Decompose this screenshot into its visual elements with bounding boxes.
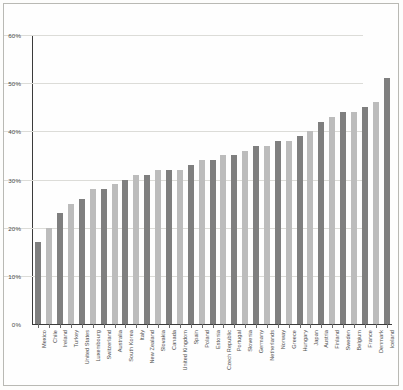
x-axis-category-label: Norway [280,330,286,349]
x-axis-category-label: Slovakia [160,330,166,352]
x-axis-tick [256,324,257,328]
x-axis-category-label: Austria [323,330,329,348]
x-axis-tick [136,324,137,328]
x-axis-category-label: Czech Republic [226,330,232,370]
bar [68,204,74,324]
x-axis-category-label: Italy [139,330,145,341]
bar [166,170,172,324]
bar [384,78,390,324]
bar [46,228,52,324]
bar [329,117,335,324]
bar [144,175,150,324]
chart-frame: 0%10%20%30%40%50%60% MexicoChileIrelandT… [3,3,399,386]
y-axis-tick-label: 10% [0,272,21,279]
x-axis-category-label: Mexico [41,330,47,348]
bar [112,184,118,324]
bar [351,112,357,324]
x-axis-tick [169,324,170,328]
x-axis-category-label: Germany [258,330,264,353]
x-axis-tick [234,324,235,328]
x-axis-category-label: Canada [171,330,177,350]
x-axis-category-label: Australia [117,330,123,352]
bar [57,213,63,324]
bar [318,122,324,324]
x-axis-category-label: Switzerland [106,330,112,359]
x-axis-tick [38,324,39,328]
bar [188,165,194,324]
x-axis-category-label: Chile [52,330,58,343]
bar [373,102,379,324]
x-axis-tick [49,324,50,328]
x-axis-tick [267,324,268,328]
bar [275,141,281,324]
x-axis-tick [289,324,290,328]
x-axis-tick [223,324,224,328]
x-axis-category-label: Denmark [378,330,384,353]
y-axis-tick-label: 20% [0,224,21,231]
y-axis-tick-label: 40% [0,128,21,135]
x-axis-category-label: Sweden [345,330,351,351]
x-axis-tick [60,324,61,328]
x-axis-tick [387,324,388,328]
bar [155,170,161,324]
x-axis-tick [191,324,192,328]
bar [286,141,292,324]
x-axis-tick [71,324,72,328]
x-axis-category-label: Iceland [389,330,395,348]
x-axis-category-label: Portugal [236,330,242,351]
x-axis-category-label: Japan [313,330,319,346]
x-axis-category-label: Ireland [62,330,68,347]
x-axis-category-label: Netherlands [269,330,275,361]
bar [340,112,346,324]
bar [177,170,183,324]
x-axis-category-label: Belgium [356,330,362,351]
x-axis-tick [310,324,311,328]
bar [264,146,270,324]
x-axis-tick [93,324,94,328]
x-axis-category-label: Spain [193,330,199,345]
x-axis-category-label: Turkey [73,330,79,347]
bar [35,242,41,324]
x-axis-category-label: Luxembourg [95,330,101,362]
x-axis-tick [115,324,116,328]
y-axis-tick-label: 50% [0,80,21,87]
x-axis-tick [125,324,126,328]
bar [90,189,96,324]
x-axis-tick [321,324,322,328]
x-axis-tick [147,324,148,328]
x-axis-tick [376,324,377,328]
chart-figure: 0%10%20%30%40%50%60% MexicoChileIrelandT… [0,0,403,390]
bar [79,199,85,324]
y-axis-tick-label: 60% [0,32,21,39]
x-axis-category-label: South Korea [128,330,134,362]
x-axis-category-label: United Kingdom [182,330,188,371]
x-axis-category-label: Slovenia [247,330,253,352]
x-axis-category-labels: MexicoChileIrelandTurkeyUnited StatesLux… [33,330,392,388]
bar [231,155,237,324]
bar [297,136,303,324]
bar [122,180,128,325]
bar-series [33,35,392,324]
x-axis-category-label: Finland [334,330,340,349]
x-axis-category-label: France [367,330,373,348]
bar [242,151,248,324]
x-axis-tick [245,324,246,328]
x-axis-category-label: United States [84,330,90,364]
bar [101,189,107,324]
x-axis-tick [343,324,344,328]
x-axis-category-label: Greece [291,330,297,349]
x-axis-tick [332,324,333,328]
x-axis-tick [354,324,355,328]
x-axis-tick [82,324,83,328]
x-axis-tick [365,324,366,328]
bar [199,160,205,324]
bar [210,160,216,324]
bar [307,131,313,324]
x-axis-tick [278,324,279,328]
x-axis-tick [213,324,214,328]
x-axis-tick [202,324,203,328]
x-axis-category-label: Estonia [215,330,221,349]
x-axis-tick [158,324,159,328]
bar [253,146,259,324]
bar [220,155,226,324]
